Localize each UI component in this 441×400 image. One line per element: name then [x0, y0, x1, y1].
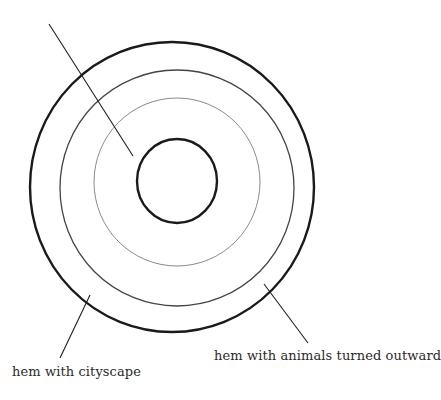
label-hem-cityscape: hem with cityscape — [12, 364, 141, 379]
leader-line-bottom-left — [60, 295, 90, 358]
leader-line-top-left — [49, 24, 133, 156]
circle-second — [60, 70, 294, 306]
leader-line-group — [49, 24, 308, 358]
circle-inner — [137, 139, 217, 223]
circle-outer — [30, 42, 314, 332]
circle-third — [94, 98, 260, 266]
circle-group — [30, 42, 314, 332]
label-hem-animals-turned-outward: hem with animals turned outward — [214, 348, 441, 363]
leader-line-bottom-right — [264, 284, 308, 343]
